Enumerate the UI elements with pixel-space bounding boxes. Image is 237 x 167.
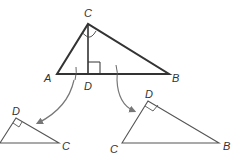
arrow-to-left-triangle xyxy=(38,80,74,123)
right-triangle-cdb: D C B xyxy=(110,88,230,155)
label-right-b: B xyxy=(223,140,230,152)
angle-mark-dcb xyxy=(88,31,96,37)
label-d: D xyxy=(84,80,92,92)
main-triangle-abc: C A B D xyxy=(43,7,179,92)
tick-mark-db xyxy=(116,65,117,80)
similar-triangles-diagram: C A B D D C D C B xyxy=(0,0,237,167)
triangle-cdb-outline xyxy=(122,101,219,143)
triangle-adc-outline xyxy=(0,118,59,143)
label-c: C xyxy=(84,7,92,19)
label-right-c: C xyxy=(110,143,118,155)
right-angle-marker-left-d xyxy=(13,122,22,127)
label-right-d: D xyxy=(145,88,153,100)
left-triangle-adc: D C xyxy=(0,105,70,152)
arrow-to-right-triangle xyxy=(117,80,134,111)
label-left-d: D xyxy=(12,105,20,117)
label-b: B xyxy=(172,72,179,84)
triangle-abc-outline xyxy=(57,24,169,74)
right-angle-marker-d xyxy=(88,62,100,74)
label-a: A xyxy=(43,72,51,84)
label-left-c: C xyxy=(62,140,70,152)
angle-mark-acd xyxy=(83,33,89,37)
